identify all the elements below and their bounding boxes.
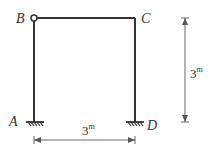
width-value: 3m [82,122,96,138]
hinge-b-icon [31,15,37,21]
arrow-right-icon [128,137,135,143]
height-dimension [181,18,189,122]
arrow-left-icon [34,137,41,143]
fixed-support-d-icon [126,122,144,126]
label-b: B [16,11,25,26]
fixed-support-a-icon [26,122,44,126]
frame-diagram: B C A D 3m 3m [0,0,219,155]
label-a: A [8,114,18,129]
arrow-up-icon [182,18,188,25]
arrow-down-icon [182,115,188,122]
label-d: D [146,118,157,133]
frame-members [34,18,135,122]
label-c: C [141,11,151,26]
height-value: 3m [190,65,204,81]
